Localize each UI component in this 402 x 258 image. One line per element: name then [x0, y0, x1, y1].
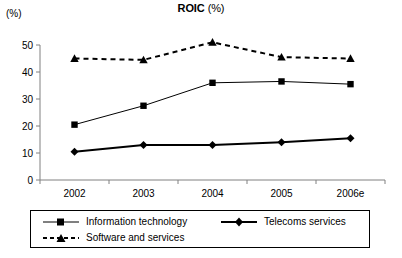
data-point-square [140, 103, 146, 109]
axes-group [36, 45, 385, 184]
x-axis-tick-label: 2002 [63, 188, 86, 199]
x-axis-labels: 20022003200420052006e [63, 188, 364, 199]
y-axis-tick-label: 30 [22, 94, 34, 105]
plot-area: 20022003200420052006e 01020304050 [0, 0, 402, 210]
legend-item-software-and-services: Software and services [43, 232, 184, 244]
data-point-triangle [208, 38, 216, 46]
chart-legend: Information technology Telecoms services… [30, 210, 370, 248]
legend-key-information-technology [43, 216, 79, 228]
legend-label-telecoms-services: Telecoms services [264, 216, 346, 228]
x-axis-tick-label: 2004 [201, 188, 224, 199]
data-point-triangle [346, 54, 354, 62]
roic-chart: ROIC (%) (%) 20022003200420052006e 01020… [0, 0, 402, 258]
data-point-diamond [140, 141, 148, 149]
y-axis-tick-label: 50 [22, 40, 34, 51]
series-information-technology [71, 78, 353, 128]
x-axis-tick-label: 2006e [337, 188, 365, 199]
y-axis-tick-label: 0 [27, 175, 33, 186]
data-point-square [209, 80, 215, 86]
legend-key-telecoms-services [221, 216, 257, 228]
y-axis-labels: 01020304050 [22, 40, 34, 186]
series-group [70, 38, 354, 156]
y-axis-tick-label: 40 [22, 67, 34, 78]
series-telecoms-services [71, 134, 355, 156]
x-axis-tick-label: 2005 [270, 188, 293, 199]
data-point-square [347, 81, 353, 87]
legend-key-software-and-services [43, 232, 79, 244]
y-axis-tick-label: 20 [22, 121, 34, 132]
data-point-diamond [278, 138, 286, 146]
data-point-square [71, 121, 77, 127]
legend-item-telecoms-services: Telecoms services [221, 216, 346, 228]
data-point-diamond [209, 141, 217, 149]
legend-label-information-technology: Information technology [86, 216, 187, 228]
legend-label-software-and-services: Software and services [86, 232, 184, 244]
series-line [75, 81, 351, 124]
data-point-diamond [347, 134, 355, 142]
legend-item-information-technology: Information technology [43, 216, 187, 228]
y-axis-tick-label: 10 [22, 148, 34, 159]
series-software-and-services [70, 38, 354, 63]
data-point-square [278, 78, 284, 84]
data-point-diamond [71, 148, 79, 156]
x-axis-tick-label: 2003 [132, 188, 155, 199]
